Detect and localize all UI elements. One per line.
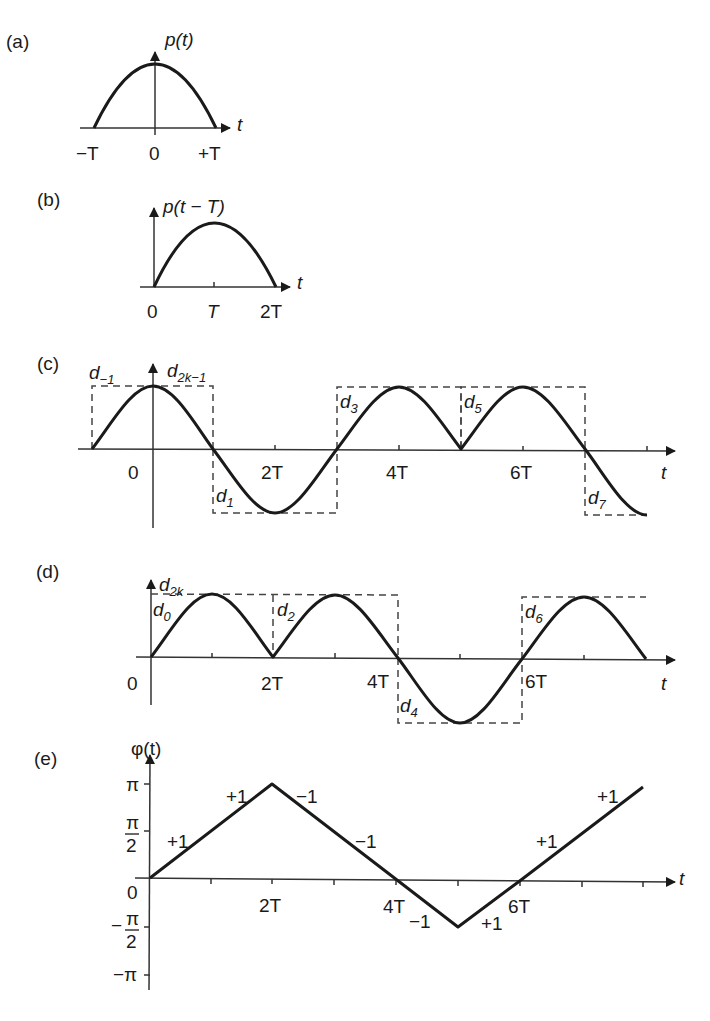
- svg-text:π: π: [126, 812, 139, 833]
- y-axis-label: φ(t): [131, 738, 161, 759]
- x-axis-label: t: [679, 868, 685, 889]
- panel-a-tag: (a): [6, 31, 29, 52]
- y-tick-neg-half-pi: − π 2: [111, 908, 139, 952]
- symbol-label: d5: [464, 391, 483, 416]
- slope-label: +1: [226, 786, 248, 807]
- panel-d-tag: (d): [36, 561, 59, 582]
- tick-label: 4T: [367, 671, 390, 692]
- panel-e-tag: (e): [34, 748, 57, 769]
- x-axis: [136, 657, 675, 660]
- svg-text:−: −: [111, 915, 122, 936]
- symbol-label: d4: [400, 695, 418, 720]
- x-tick-label: 6T: [508, 896, 531, 917]
- symbol-label: d7: [588, 487, 607, 512]
- svg-text:2: 2: [126, 931, 137, 952]
- figure-canvas: (a) p(t) t −T 0 +T (b) p(t − T) t 0 T 2T…: [0, 0, 710, 1021]
- tick-label: T: [207, 301, 220, 322]
- panel-b-tag: (b): [37, 189, 60, 210]
- y-tick-half-pi: π 2: [125, 812, 139, 856]
- symbol-label: d2: [277, 599, 296, 624]
- tick-label: −T: [76, 143, 99, 164]
- slope-label: +1: [167, 831, 189, 852]
- tick-label: 2T: [261, 462, 284, 483]
- y-axis-label: d2k: [159, 574, 185, 599]
- tick-label: 6T: [510, 462, 533, 483]
- symbol-label: d6: [525, 601, 544, 626]
- x-axis-label: t: [297, 272, 303, 293]
- symbol-label: d0: [153, 599, 172, 624]
- x-axis-label: t: [661, 462, 667, 483]
- panel-e: (e) φ(t) t π π 2 0 −: [34, 738, 685, 990]
- x-tick-label: 4T: [383, 896, 406, 917]
- tick-label: 2T: [261, 673, 284, 694]
- y-tick-pi: π: [126, 774, 139, 795]
- y-tick-zero: 0: [127, 882, 138, 903]
- slope-label: −1: [296, 786, 318, 807]
- slope-label: +1: [481, 913, 503, 934]
- tick-label: 6T: [525, 671, 548, 692]
- symbol-label: d1: [216, 485, 234, 510]
- slope-label: +1: [597, 786, 619, 807]
- panel-d: (d) d2k d0 d2 d4 d6 0 2T 4T 6T t: [36, 561, 675, 723]
- slope-label: −1: [409, 911, 431, 932]
- tick-label: 0: [127, 673, 138, 694]
- x-axis-label: t: [661, 673, 667, 694]
- shifted-pulse-curve: [154, 223, 276, 287]
- panel-c: (c) d−1 d2k−1 d1 d3 d5 d7 0 2T 4T 6T t: [37, 353, 675, 528]
- y-axis-label: d2k−1: [167, 360, 206, 385]
- x-axis: [135, 878, 675, 882]
- panel-a: (a) p(t) t −T 0 +T: [6, 29, 243, 164]
- svg-text:2: 2: [126, 835, 137, 856]
- x-tick-label: 2T: [259, 895, 282, 916]
- symbol-label: d−1: [89, 362, 114, 387]
- tick-label: 0: [147, 301, 158, 322]
- svg-text:π: π: [126, 908, 139, 929]
- y-axis-label: p(t − T): [162, 196, 225, 217]
- slope-label: −1: [355, 831, 377, 852]
- symbol-label: d3: [340, 391, 359, 416]
- slope-label: +1: [536, 831, 558, 852]
- x-axis-label: t: [237, 114, 243, 135]
- tick-label: 0: [128, 462, 139, 483]
- tick-label: 2T: [260, 301, 283, 322]
- y-axis: [149, 755, 150, 990]
- tick-label: 0: [149, 143, 160, 164]
- tick-label: 4T: [386, 462, 409, 483]
- y-axis-label: p(t): [164, 29, 194, 50]
- y-tick-neg-pi: −π: [113, 964, 137, 985]
- panel-c-tag: (c): [37, 353, 59, 374]
- tick-label: +T: [198, 143, 221, 164]
- panel-b: (b) p(t − T) t 0 T 2T: [37, 189, 303, 322]
